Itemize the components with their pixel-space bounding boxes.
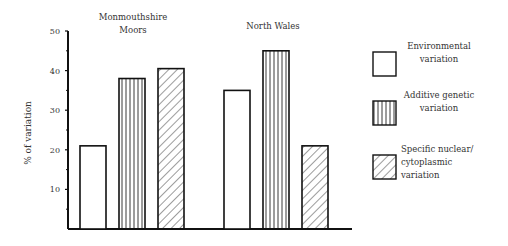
y-tick-label: 20 [50,146,60,155]
legend-label: variation [419,54,459,64]
y-tick-label: 40 [50,67,60,76]
chart: 1020304050% of variationMonmouthshireMoo… [0,0,508,246]
legend-label: variation [419,103,459,113]
y-tick-label: 30 [50,106,60,115]
legend-label: variation [400,170,440,180]
bar [263,51,289,229]
group-label-north-wales: North Wales [246,21,299,31]
group-label-moors: Moors [119,25,146,35]
y-axis-label: % of variation [23,101,33,165]
legend-swatch [373,101,396,125]
legend-label: cytoplasmic [401,157,452,167]
legend-label: Specific nuclear/ [401,144,473,154]
bar [119,79,145,229]
group-label-monmouthshire: Monmouthshire [99,12,168,22]
bar [158,69,184,229]
legend-swatch [373,52,396,76]
legend-label: Environmental [407,41,471,51]
legend-label: Additive genetic [403,90,475,100]
bar [302,146,328,229]
legend-swatch [373,155,396,179]
bar [80,146,106,229]
bar [224,90,250,229]
y-tick-label: 10 [50,185,60,194]
y-tick-label: 50 [50,27,60,36]
